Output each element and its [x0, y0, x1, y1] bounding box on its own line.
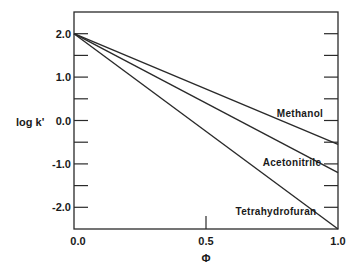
x-tick-label: 1.0: [330, 235, 345, 247]
x-axis-label: Φ: [201, 252, 210, 264]
y-axis-label: log k': [16, 116, 45, 128]
series-line-methanol: [74, 34, 338, 145]
plot-frame: [74, 12, 338, 229]
y-tick-label: 0.0: [56, 115, 71, 127]
series-label-acetonitrile: Acetonitrile: [263, 157, 322, 168]
y-tick-label: 1.0: [56, 71, 71, 83]
series-line-tetrahydrofuran: [74, 34, 338, 229]
chart: 2.01.00.0-1.0-2.0 0.00.51.0 MethanolAcet…: [0, 0, 356, 272]
series-label-tetrahydrofuran: Tetrahydrofuran: [236, 206, 317, 217]
series-line-acetonitrile: [74, 34, 338, 173]
x-axis-ticks: 0.00.51.0: [70, 216, 345, 247]
y-tick-label: 2.0: [56, 28, 71, 40]
series-label-methanol: Methanol: [277, 108, 323, 119]
x-tick-label: 0.5: [198, 235, 213, 247]
y-axis-ticks: 2.01.00.0-1.0-2.0: [52, 28, 338, 214]
y-tick-label: -1.0: [52, 158, 71, 170]
plot-border: [74, 12, 338, 229]
x-tick-label: 0.0: [70, 235, 85, 247]
series-lines: [74, 34, 338, 229]
y-tick-label: -2.0: [52, 201, 71, 213]
